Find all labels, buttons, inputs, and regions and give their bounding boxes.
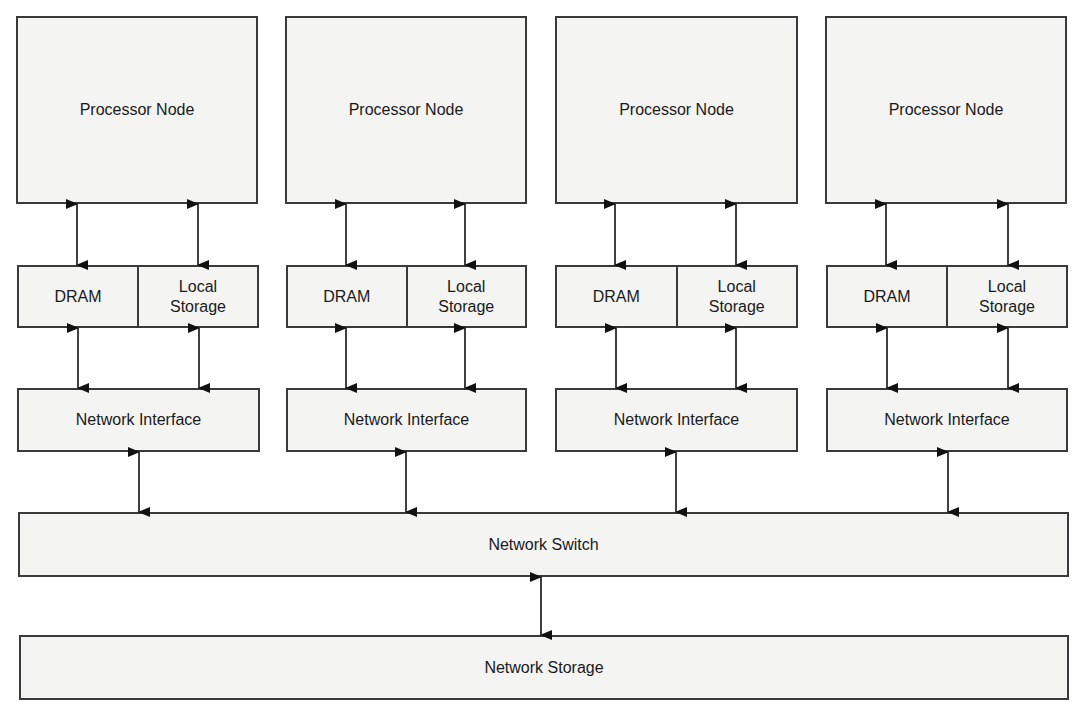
processor-node-label: Processor Node: [889, 100, 1004, 120]
local-storage-label: Local Storage: [438, 277, 494, 317]
local-storage-label: Local Storage: [709, 277, 765, 317]
network-interface-2: Network Interface: [286, 388, 527, 452]
local-storage-block: Local Storage: [137, 267, 257, 326]
memory-row-4: DRAM Local Storage: [826, 265, 1068, 328]
processor-node-label: Processor Node: [80, 100, 195, 120]
network-interface-1: Network Interface: [17, 388, 260, 452]
network-storage-label: Network Storage: [484, 658, 603, 678]
network-interface-label: Network Interface: [614, 410, 739, 430]
dram-block: DRAM: [557, 267, 676, 326]
dram-block: DRAM: [828, 267, 946, 326]
dram-block: DRAM: [288, 267, 406, 326]
processor-node-4: Processor Node: [825, 16, 1067, 204]
dram-label: DRAM: [323, 287, 370, 307]
local-storage-block: Local Storage: [406, 267, 526, 326]
memory-row-3: DRAM Local Storage: [555, 265, 798, 328]
processor-node-label: Processor Node: [349, 100, 464, 120]
processor-node-3: Processor Node: [555, 16, 798, 204]
network-storage: Network Storage: [19, 635, 1069, 700]
processor-node-1: Processor Node: [16, 16, 258, 204]
dram-block: DRAM: [19, 267, 137, 326]
local-storage-block: Local Storage: [946, 267, 1066, 326]
network-interface-3: Network Interface: [555, 388, 798, 452]
memory-row-2: DRAM Local Storage: [286, 265, 527, 328]
dram-label: DRAM: [593, 287, 640, 307]
network-interface-label: Network Interface: [884, 410, 1009, 430]
network-switch: Network Switch: [18, 512, 1069, 577]
dram-label: DRAM: [54, 287, 101, 307]
network-interface-label: Network Interface: [76, 410, 201, 430]
processor-node-2: Processor Node: [285, 16, 527, 204]
dram-label: DRAM: [863, 287, 910, 307]
network-interface-label: Network Interface: [344, 410, 469, 430]
network-switch-label: Network Switch: [488, 535, 598, 555]
local-storage-block: Local Storage: [676, 267, 797, 326]
local-storage-label: Local Storage: [979, 277, 1035, 317]
local-storage-label: Local Storage: [170, 277, 226, 317]
network-interface-4: Network Interface: [826, 388, 1068, 452]
processor-node-label: Processor Node: [619, 100, 734, 120]
memory-row-1: DRAM Local Storage: [17, 265, 259, 328]
